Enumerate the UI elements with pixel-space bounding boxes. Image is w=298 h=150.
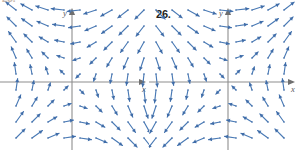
vector-arrow xyxy=(135,9,145,19)
vector-tail-dot xyxy=(203,137,205,139)
vector-tail-dot xyxy=(219,105,221,107)
vector-tail-dot xyxy=(283,9,285,11)
vector-tail-dot xyxy=(187,105,189,107)
vector-tail-dot xyxy=(127,25,129,27)
vector-arrow xyxy=(107,57,113,67)
vector-tail-dot xyxy=(143,105,145,107)
vector-arrow xyxy=(63,135,75,139)
vector-arrow xyxy=(36,5,49,11)
vector-arrow xyxy=(219,73,224,78)
vector-arrow xyxy=(283,63,287,75)
vector-tail-dot xyxy=(155,89,157,91)
vector-arrow xyxy=(267,65,271,75)
vector-tail-dot xyxy=(219,73,221,75)
vector-tail-dot xyxy=(267,105,269,107)
vector-arrowhead xyxy=(229,9,233,13)
vector-tail-dot xyxy=(251,89,253,91)
vector-tail-dot xyxy=(219,57,221,59)
vector-arrow xyxy=(31,97,37,107)
vector-tail-dot xyxy=(47,73,49,75)
vector-tail-dot xyxy=(171,41,173,43)
vector-tail-dot xyxy=(111,137,113,139)
vector-tail-dot xyxy=(143,137,145,139)
vector-tail-dot xyxy=(63,121,65,123)
vector-arrow xyxy=(229,103,237,107)
vector-tail-dot xyxy=(15,25,17,27)
vector-tail-dot xyxy=(95,9,97,11)
vector-arrow xyxy=(279,95,285,107)
vector-arrow xyxy=(267,34,276,43)
vector-tail-dot xyxy=(187,121,189,123)
vector-tail-dot xyxy=(251,57,253,59)
vector-arrow xyxy=(39,37,49,43)
vector-tail-dot xyxy=(171,89,173,91)
vector-arrow xyxy=(57,55,65,59)
vector-tail-dot xyxy=(95,121,97,123)
vector-arrow xyxy=(127,89,131,101)
vector-tail-dot xyxy=(47,41,49,43)
vector-tail-dot xyxy=(155,73,157,75)
vector-arrow xyxy=(216,89,221,94)
vector-arrow xyxy=(283,17,293,27)
vector-tail-dot xyxy=(235,121,237,123)
vector-arrow xyxy=(111,121,120,130)
vector-arrow xyxy=(63,103,71,107)
vector-tail-dot xyxy=(187,137,189,139)
vector-tail-dot xyxy=(155,41,157,43)
vector-tail-dot xyxy=(111,73,113,75)
vector-tail-dot xyxy=(267,89,269,91)
vector-tail-dot xyxy=(31,121,33,123)
vector-tail-dot xyxy=(155,9,157,11)
vector-tail-dot xyxy=(31,105,33,107)
vector-tail-dot xyxy=(235,25,237,27)
vector-arrow xyxy=(171,41,179,52)
vector-arrow xyxy=(79,89,84,94)
vector-arrow xyxy=(13,63,17,75)
vector-arrow xyxy=(22,19,33,27)
vector-arrow xyxy=(31,131,42,139)
vector-arrow xyxy=(171,9,182,18)
vector-arrow xyxy=(85,25,97,31)
vector-arrow xyxy=(136,25,145,36)
vector-arrow xyxy=(90,57,97,64)
vector-tail-dot xyxy=(127,89,129,91)
vector-tail-dot xyxy=(79,25,81,27)
vector-arrow xyxy=(219,25,231,29)
vector-arrow xyxy=(155,9,165,19)
vector-tail-dot xyxy=(219,9,221,11)
vector-arrow xyxy=(251,67,255,75)
vector-arrow xyxy=(95,89,99,97)
vector-arrow xyxy=(235,70,240,75)
vector-arrow xyxy=(241,133,253,139)
vector-arrow xyxy=(169,89,173,101)
axes: xy xyxy=(149,8,295,150)
vector-arrow xyxy=(235,23,247,27)
vector-tail-dot xyxy=(187,25,189,27)
vector-tail-dot xyxy=(31,25,33,27)
vector-arrow xyxy=(139,57,145,70)
vector-tail-dot xyxy=(111,41,113,43)
vector-arrow xyxy=(6,2,17,11)
vector-tail-dot xyxy=(95,89,97,91)
vector-arrow xyxy=(155,57,161,70)
vector-tail-dot xyxy=(251,105,253,107)
vector-field-plot-26: xy xyxy=(149,0,298,150)
vector-arrow xyxy=(15,129,25,139)
vector-tail-dot xyxy=(111,121,113,123)
vector-arrow xyxy=(153,89,157,103)
vector-tail-dot xyxy=(267,41,269,43)
vector-tail-dot xyxy=(187,89,189,91)
vector-arrow xyxy=(232,86,237,91)
vector-arrow xyxy=(203,57,210,64)
vector-arrow xyxy=(235,7,249,11)
vector-arrow xyxy=(201,89,205,97)
vector-tail-dot xyxy=(79,73,81,75)
vector-tail-dot xyxy=(235,89,237,91)
vector-tail-dot xyxy=(203,105,205,107)
vector-arrow xyxy=(127,121,135,132)
vector-arrow xyxy=(69,25,81,29)
vector-arrow xyxy=(47,100,54,107)
vector-tail-dot xyxy=(283,121,285,123)
vector-arrow xyxy=(24,34,33,43)
vector-tail-dot xyxy=(219,25,221,27)
